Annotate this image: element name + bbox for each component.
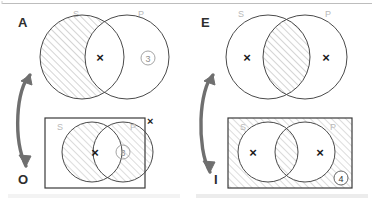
diagram-O-x-intersection: × [91,145,99,160]
arrow-right [201,75,215,172]
bottom-bar-left [8,194,180,198]
diagram-I-letter: I [214,172,218,187]
diagram-E-letter: E [201,15,210,30]
arrow-left [18,75,32,166]
diagram-I-label-P: P [330,122,336,132]
diagram-I-number-four: 4 [334,171,348,185]
diagram-I: I S P × × 4 [214,118,352,188]
diagram-A-number-three-text: 3 [145,54,150,64]
diagram-O-shading-p-only [58,118,168,188]
diagram-A-letter: A [18,15,28,30]
diagram-I-label-S: S [240,122,246,132]
arrow-right-head-bottom [203,161,215,172]
diagram-O-number-three-text: 3 [120,148,125,158]
diagram-E-label-P: P [325,9,331,19]
diagram-E: E S P × × [201,9,365,108]
diagram-O-label-S: S [57,122,63,132]
bottom-bar-right [196,194,368,198]
diagram-I-x-s-only: × [249,145,257,160]
diagram-O-label-P: P [130,122,136,132]
diagram-A: A S P × 3 [18,9,175,108]
arrow-left-head-bottom [19,155,31,166]
diagram-I-x-p-only: × [316,145,324,160]
diagram-A-x-intersection: × [96,50,104,65]
diagram-O: O S P × 3 × [18,115,168,188]
diagram-canvas: A S P × 3 O [0,0,374,202]
diagram-E-x-p-only: × [322,50,330,65]
venn-diagram-sheet: A S P × 3 O [0,0,374,202]
diagram-E-label-S: S [238,9,244,19]
diagram-E-x-s-only: × [243,50,251,65]
diagram-O-letter: O [18,172,28,187]
diagram-O-x-outside: × [147,115,153,127]
diagram-I-number-four-text: 4 [338,174,343,184]
